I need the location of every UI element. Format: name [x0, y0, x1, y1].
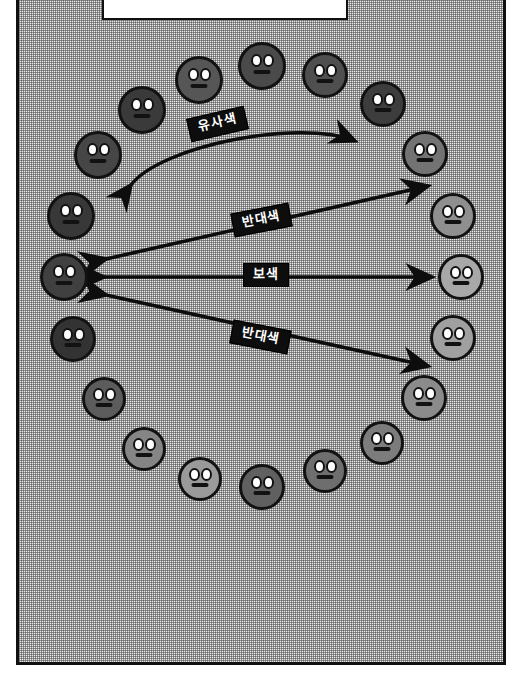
eye-right	[201, 468, 212, 481]
eye-left	[188, 68, 199, 81]
face-eyes	[305, 64, 345, 77]
face-eyes	[125, 438, 163, 451]
face-eyes	[363, 93, 403, 106]
face-mouth	[416, 402, 433, 406]
eye-left	[314, 460, 325, 473]
eye-left	[414, 143, 425, 156]
eye-left	[450, 266, 461, 279]
face-mouth	[254, 70, 271, 74]
face-mouth	[136, 453, 153, 457]
face-eyes	[178, 68, 220, 81]
face-mouth	[317, 475, 334, 479]
face-mouth	[56, 281, 73, 285]
face-circle	[40, 253, 88, 301]
face-mouth	[317, 79, 334, 83]
face-mouth	[417, 158, 434, 162]
face-eyes	[43, 265, 85, 278]
face-mouth	[374, 447, 391, 451]
face-circle	[430, 315, 476, 361]
face-mouth	[65, 343, 82, 347]
eye-right	[263, 476, 274, 489]
face-eyes	[363, 432, 401, 445]
face-eyes	[121, 98, 163, 111]
face-circle	[74, 131, 122, 179]
eye-left	[131, 98, 142, 111]
eye-left	[371, 432, 382, 445]
face-circle	[360, 421, 404, 465]
face-eyes	[181, 468, 219, 481]
face-circle	[402, 131, 448, 177]
face-eyes	[50, 204, 92, 217]
face-mouth	[90, 159, 107, 163]
eye-right	[105, 388, 116, 401]
face-circle	[175, 56, 223, 104]
eye-left	[251, 476, 262, 489]
face-mouth	[96, 403, 113, 407]
eye-right	[383, 432, 394, 445]
eye-right	[263, 54, 274, 67]
eye-left	[314, 64, 325, 77]
eye-left	[442, 327, 453, 340]
face-eyes	[433, 327, 473, 340]
face-mouth	[254, 491, 271, 495]
face-circle	[47, 192, 95, 240]
face-mouth	[445, 342, 462, 346]
face-eyes	[405, 143, 445, 156]
eye-left	[87, 143, 98, 156]
face-circle	[360, 81, 406, 127]
face-eyes	[77, 143, 119, 156]
label-complementary: 보색	[243, 263, 289, 287]
eye-right	[145, 438, 156, 451]
face-mouth	[453, 281, 470, 285]
face-mouth	[134, 114, 151, 118]
face-circle	[82, 377, 126, 421]
face-circle	[302, 52, 348, 98]
face-mouth	[445, 220, 462, 224]
face-circle	[118, 86, 166, 134]
eye-right	[65, 265, 76, 278]
eye-right	[425, 387, 436, 400]
arrow-analogous	[131, 133, 355, 185]
eye-left	[133, 438, 144, 451]
eye-right	[454, 205, 465, 218]
eye-right	[326, 460, 337, 473]
eye-right	[143, 98, 154, 111]
eye-left	[60, 204, 71, 217]
face-eyes	[433, 205, 473, 218]
face-mouth	[192, 483, 209, 487]
eye-right	[99, 143, 110, 156]
face-eyes	[242, 476, 282, 489]
face-circle	[430, 193, 476, 239]
eye-left	[251, 54, 262, 67]
eye-left	[189, 468, 200, 481]
face-eyes	[306, 460, 344, 473]
eye-right	[426, 143, 437, 156]
eye-right	[454, 327, 465, 340]
eye-left	[93, 388, 104, 401]
face-circle	[239, 464, 285, 510]
eye-left	[413, 387, 424, 400]
face-eyes	[404, 387, 444, 400]
eye-left	[62, 328, 73, 341]
eye-left	[372, 93, 383, 106]
eye-right	[72, 204, 83, 217]
face-circle	[303, 449, 347, 493]
face-eyes	[441, 266, 481, 279]
face-mouth	[375, 108, 392, 112]
face-mouth	[63, 220, 80, 224]
eye-right	[74, 328, 85, 341]
eye-left	[442, 205, 453, 218]
face-eyes	[241, 54, 283, 67]
face-eyes	[85, 388, 123, 401]
eye-right	[462, 266, 473, 279]
face-eyes	[53, 328, 93, 341]
eye-left	[53, 265, 64, 278]
face-circle	[238, 42, 286, 90]
face-circle	[438, 254, 484, 300]
face-circle	[50, 316, 96, 362]
eye-right	[384, 93, 395, 106]
face-circle	[178, 457, 222, 501]
face-circle	[401, 375, 447, 421]
eye-right	[200, 68, 211, 81]
face-circle	[122, 427, 166, 471]
